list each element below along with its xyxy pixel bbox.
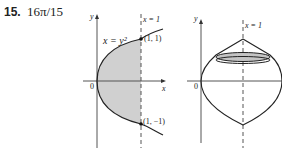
right-origin-label: 0 xyxy=(194,82,198,91)
figures: y x 0 x = y² x = 1 (1, 1) (1, −1) y 0 x … xyxy=(0,0,282,150)
x-axis-arrow-icon xyxy=(161,79,166,83)
y-axis-arrow-icon xyxy=(95,14,99,19)
left-figure: y x 0 x = y² x = 1 (1, 1) (1, −1) xyxy=(83,12,166,148)
right-y-label: y xyxy=(193,14,198,23)
left-line-label: x = 1 xyxy=(142,15,160,24)
right-line-label: x = 1 xyxy=(244,21,262,30)
left-origin-label: 0 xyxy=(90,82,94,91)
right-y-axis-arrow-icon xyxy=(199,19,203,24)
left-y-label: y xyxy=(89,12,94,21)
point-top-label: (1, 1) xyxy=(144,34,162,43)
right-figure: y 0 x = 1 xyxy=(187,14,282,148)
solid-outline xyxy=(201,39,282,125)
curve-label: x = y² xyxy=(102,35,128,46)
left-x-label: x xyxy=(161,84,166,93)
point-bottom-label: (1, −1) xyxy=(143,117,165,126)
